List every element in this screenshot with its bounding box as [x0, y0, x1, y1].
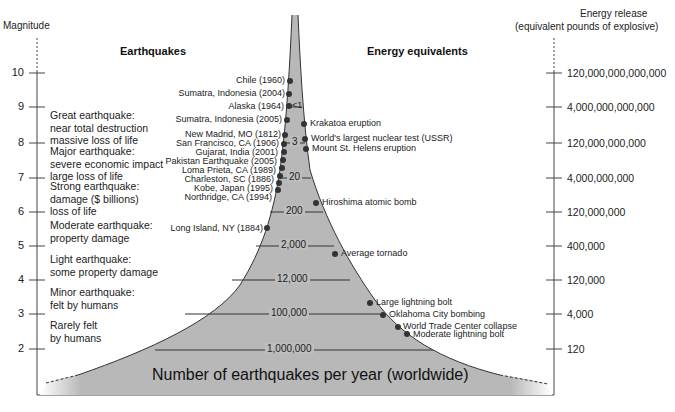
count-label: 1,000,000 — [265, 343, 314, 354]
energy-tick: 4,000,000,000 — [567, 172, 634, 184]
earthquake-label: Sumatra, Indonesia (2004) — [178, 88, 285, 98]
energy-tick: 120,000,000,000 — [567, 137, 646, 149]
magnitude-tick: 10 — [4, 66, 24, 78]
magnitude-tick: 9 — [4, 100, 24, 112]
energy-tick: 400,000 — [567, 240, 605, 252]
magnitude-tick: 8 — [4, 136, 24, 148]
frequency-axis-label: Number of earthquakes per year (worldwid… — [152, 366, 469, 384]
energy-tick: 120 — [567, 343, 585, 355]
energy-event-label: Average tornado — [341, 248, 407, 258]
count-label: 100,000 — [269, 307, 309, 318]
count-label: 20 — [287, 171, 302, 182]
earthquake-label: Chile (1960) — [236, 75, 285, 85]
description-strong: Strong earthquake: damage ($ billions) l… — [50, 180, 139, 218]
magnitude-tick: 6 — [4, 205, 24, 217]
energy-tick: 4,000,000,000,000 — [567, 101, 655, 113]
description-rarely-felt: Rarely felt by humans — [50, 319, 101, 344]
right-axis-title-line1: Energy release — [580, 8, 647, 19]
energy-tick: 120,000 — [567, 274, 605, 286]
energy-equivalents-header: Energy equivalents — [367, 45, 468, 57]
energy-event-label: Moderate lightning bolt — [413, 329, 504, 339]
energy-event-label: Oklahoma City bombing — [389, 309, 485, 319]
magnitude-tick: 2 — [4, 342, 24, 354]
magnitude-tick: 3 — [4, 307, 24, 319]
energy-event-label: Large lightning bolt — [376, 297, 452, 307]
left-axis-title: Magnitude — [3, 20, 50, 31]
magnitude-tick: 5 — [4, 239, 24, 251]
count-label: 200 — [284, 205, 305, 216]
energy-event-label: Hiroshima atomic bomb — [322, 197, 417, 207]
energy-event-label: Krakatoa eruption — [310, 118, 381, 128]
energy-event-label: World's largest nuclear test (USSR) — [311, 133, 453, 143]
count-label: 3 — [290, 136, 300, 147]
description-minor: Minor earthquake: felt by humans — [50, 286, 135, 311]
earthquake-label: Northridge, CA (1994) — [184, 192, 272, 202]
energy-event-label: Mount St. Helens eruption — [312, 143, 416, 153]
magnitude-tick: 7 — [4, 171, 24, 183]
count-label: <1 — [290, 100, 304, 110]
right-axis-title-line2: (equivalent pounds of explosive) — [515, 21, 658, 32]
count-label: 2,000 — [279, 239, 308, 250]
energy-tick: 4,000 — [567, 308, 593, 320]
energy-tick: 120,000,000 — [567, 206, 625, 218]
description-light: Light earthquake: some property damage — [50, 253, 158, 278]
earthquakes-header: Earthquakes — [120, 45, 186, 57]
earthquake-label: Alaska (1964) — [228, 101, 284, 111]
energy-tick: 120,000,000,000,000 — [567, 67, 666, 79]
magnitude-tick: 4 — [4, 273, 24, 285]
description-moderate: Moderate earthquake: property damage — [50, 219, 153, 244]
description-major: Major earthquake: severe economic impact… — [50, 145, 163, 183]
description-great: Great earthquake: near total destruction… — [50, 109, 148, 147]
count-label: 12,000 — [275, 273, 310, 284]
earthquake-label: Sumatra, Indonesia (2005) — [175, 114, 282, 124]
earthquake-label: Long Island, NY (1884) — [171, 223, 263, 233]
